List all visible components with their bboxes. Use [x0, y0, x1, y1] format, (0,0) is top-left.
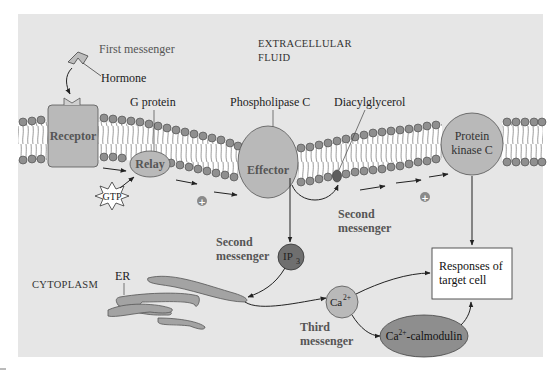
- region-extracellular: Extracellular: [258, 38, 352, 49]
- svg-text:target cell: target cell: [439, 273, 487, 287]
- label-er: ER: [115, 269, 130, 283]
- label-third-messenger-2: messenger: [300, 334, 354, 348]
- receptor: Receptor: [48, 98, 98, 167]
- gtp-burst: GTP: [95, 182, 129, 210]
- label-second-messenger-ip3-2: messenger: [216, 249, 270, 263]
- diacylglycerol-molecule: [333, 170, 342, 182]
- relay-g-protein: Relay: [130, 151, 170, 177]
- label-first-messenger: First messenger: [99, 42, 175, 56]
- receptor-label: Receptor: [50, 129, 97, 143]
- label-second-messenger-ip3-1: Second: [216, 235, 253, 249]
- svg-text:IP: IP: [283, 250, 293, 262]
- relay-label: Relay: [135, 157, 164, 171]
- calcium-ion: Ca 2+: [326, 286, 358, 318]
- activation-plus-2: +: [420, 192, 430, 203]
- label-g-protein: G protein: [130, 95, 176, 109]
- label-hormone: Hormone: [101, 71, 146, 85]
- effector-phospholipase-c: Effector: [238, 126, 298, 198]
- signal-diagram: Extracellular Fluid Cytoplasm First mess…: [0, 0, 560, 377]
- label-phospholipase-c: Phospholipase C: [230, 95, 310, 109]
- svg-text:+: +: [421, 193, 429, 203]
- pkc-label-1: Protein: [455, 129, 490, 143]
- label-second-messenger-dag-1: Second: [338, 207, 375, 221]
- gtp-label: GTP: [103, 191, 122, 202]
- activation-plus-1: +: [197, 196, 207, 207]
- svg-text:Ca: Ca: [330, 296, 342, 308]
- ca-calmodulin-complex: Ca2+-calmodulin: [380, 315, 468, 357]
- svg-text:Ca2+-calmodulin: Ca2+-calmodulin: [386, 328, 463, 342]
- responses-of-target-cell: Responses of target cell: [432, 248, 512, 299]
- label-third-messenger-1: Third: [300, 320, 330, 334]
- region-cytoplasm: Cytoplasm: [32, 279, 98, 290]
- region-fluid: Fluid: [258, 52, 291, 63]
- svg-text:Responses of: Responses of: [439, 259, 503, 273]
- effector-label: Effector: [247, 163, 290, 177]
- protein-kinase-c: Protein kinase C: [441, 113, 503, 175]
- svg-text:2+: 2+: [343, 293, 351, 302]
- label-second-messenger-dag-2: messenger: [338, 221, 392, 235]
- ip3-molecule: IP 3: [278, 244, 304, 270]
- svg-text:+: +: [198, 197, 206, 207]
- svg-text:3: 3: [296, 257, 300, 266]
- label-diacylglycerol: Diacylglycerol: [334, 95, 406, 109]
- pkc-label-2: kinase C: [451, 143, 493, 157]
